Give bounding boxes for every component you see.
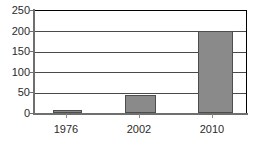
- x-tick-label-2002: 2002: [119, 124, 159, 135]
- bar-chart: 250 200 150 100 50 0 1976 2002 2010: [0, 0, 254, 147]
- x-tick-mark-2010: [212, 114, 213, 118]
- x-tick-mark-2002: [139, 114, 140, 118]
- x-tick-label-1976: 1976: [46, 124, 86, 135]
- x-tick-label-2010: 2010: [192, 124, 232, 135]
- x-axis-labels: 1976 2002 2010: [0, 0, 254, 147]
- x-tick-mark-1976: [66, 114, 67, 118]
